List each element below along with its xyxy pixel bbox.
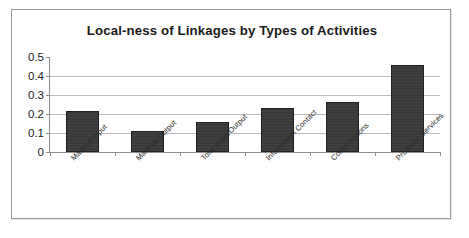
- chart-title: Local-ness of Linkages by Types of Activ…: [12, 23, 452, 38]
- y-tick-mark: [46, 114, 50, 115]
- y-tick-mark: [46, 95, 50, 96]
- y-tick-label: 0: [38, 146, 44, 158]
- x-axis-category-labels: Material InputMaterial OutputTotal Input…: [50, 156, 442, 222]
- y-tick-label: 0.4: [28, 70, 44, 82]
- y-tick-mark: [46, 57, 50, 58]
- gridline: [50, 133, 440, 134]
- gridline: [50, 76, 440, 77]
- y-tick-label: 0.3: [28, 89, 44, 101]
- y-axis-line: [49, 57, 50, 152]
- chart-frame: Local-ness of Linkages by Types of Activ…: [11, 9, 451, 219]
- y-tick-label: 0.2: [28, 108, 44, 120]
- y-tick-label: 0.1: [28, 127, 44, 139]
- y-tick-mark: [46, 133, 50, 134]
- y-tick-label: 0.5: [28, 51, 44, 63]
- plot-area: 0.50.40.30.20.10: [50, 57, 440, 152]
- y-tick-mark: [46, 76, 50, 77]
- gridline: [50, 95, 440, 96]
